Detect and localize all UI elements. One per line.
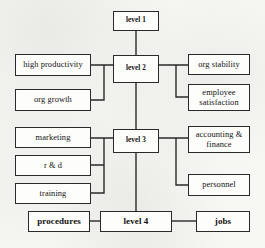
node-label-highprod: high productivity xyxy=(21,60,85,69)
node-empsat[interactable]: employee satisfaction xyxy=(188,84,250,111)
connector-c-right3-bus xyxy=(159,138,188,185)
connector-c-left2-bus xyxy=(91,65,113,100)
node-marketing[interactable]: marketing xyxy=(15,127,91,148)
node-label-level1: level 1 xyxy=(124,17,148,25)
node-label-jobs: jobs xyxy=(213,217,233,227)
diagram-canvas: level 1level 2level 3level 4high product… xyxy=(0,0,265,248)
node-rd[interactable]: r & d xyxy=(15,155,91,176)
node-highprod[interactable]: high productivity xyxy=(15,54,91,76)
node-label-orggrowth: org growth xyxy=(32,95,74,104)
node-label-acctfin: accounting & finance xyxy=(194,130,245,148)
node-training[interactable]: training xyxy=(15,183,91,204)
node-label-level4: level 4 xyxy=(122,217,151,227)
node-label-empsat: employee satisfaction xyxy=(197,88,240,106)
node-acctfin[interactable]: accounting & finance xyxy=(188,126,250,153)
node-level3[interactable]: level 3 xyxy=(113,129,159,153)
node-personnel[interactable]: personnel xyxy=(188,174,250,196)
node-label-training: training xyxy=(38,189,69,198)
node-orggrowth[interactable]: org growth xyxy=(15,89,91,111)
node-orgstability[interactable]: org stability xyxy=(188,54,250,75)
connector-c-right2-bus xyxy=(159,65,188,97)
node-level2[interactable]: level 2 xyxy=(113,55,159,83)
node-label-orgstability: org stability xyxy=(196,60,241,69)
node-procedures[interactable]: procedures xyxy=(28,211,90,232)
node-level1[interactable]: level 1 xyxy=(113,11,159,31)
node-jobs[interactable]: jobs xyxy=(196,211,250,232)
connector-c-left3-bus xyxy=(91,138,113,193)
node-label-level2: level 2 xyxy=(124,65,148,73)
node-label-procedures: procedures xyxy=(35,217,83,227)
node-label-personnel: personnel xyxy=(200,180,237,189)
node-label-rd: r & d xyxy=(42,161,64,170)
node-level4[interactable]: level 4 xyxy=(100,211,172,232)
node-label-level3: level 3 xyxy=(124,137,148,145)
node-label-marketing: marketing xyxy=(34,133,73,142)
